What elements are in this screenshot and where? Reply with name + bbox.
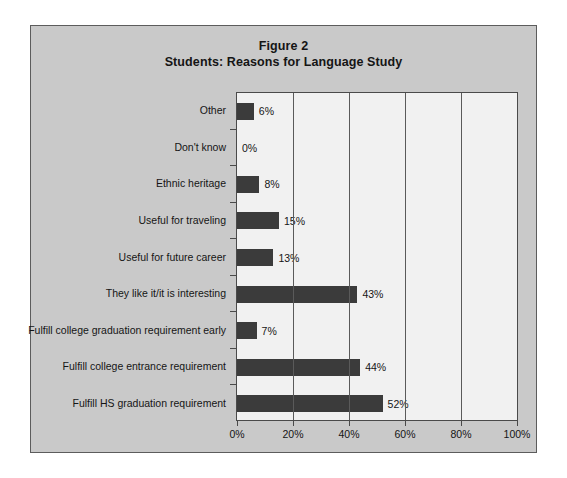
- bar: [237, 249, 273, 266]
- y-axis-tick: [230, 238, 236, 239]
- category-label: Other: [200, 104, 226, 116]
- chart-panel: Figure 2 Students: Reasons for Language …: [30, 25, 537, 453]
- plot-area: 6%0%8%15%13%43%7%44%52%: [236, 92, 518, 421]
- x-axis-tick: [237, 421, 238, 426]
- y-axis-tick: [230, 129, 236, 130]
- figure-root: Figure 2 Students: Reasons for Language …: [0, 0, 567, 478]
- x-axis-tick-label: 40%: [324, 428, 374, 440]
- y-axis-tick: [230, 202, 236, 203]
- x-axis-tick-label: 80%: [436, 428, 486, 440]
- bar: [237, 103, 254, 120]
- x-axis-tick: [461, 421, 462, 426]
- x-axis-tick: [405, 421, 406, 426]
- x-axis-tick-label: 60%: [380, 428, 430, 440]
- bar-value-label: 6%: [259, 105, 274, 117]
- bar: [237, 212, 279, 229]
- category-label: They like it/it is interesting: [106, 287, 226, 299]
- bar-value-label: 0%: [242, 142, 257, 154]
- x-axis-tick: [517, 421, 518, 426]
- x-axis-tick-label: 100%: [492, 428, 542, 440]
- y-axis-tick: [230, 275, 236, 276]
- bar-value-label: 44%: [365, 361, 386, 373]
- category-label: Fulfill college graduation requirement e…: [28, 324, 226, 336]
- category-axis-labels: OtherDon't knowEthnic heritageUseful for…: [31, 92, 231, 421]
- bar: [237, 322, 257, 339]
- gridline: [293, 93, 294, 420]
- bar-rows: 6%0%8%15%13%43%7%44%52%: [237, 93, 517, 420]
- bar-value-label: 7%: [262, 325, 277, 337]
- bar-value-label: 15%: [284, 215, 305, 227]
- category-label: Useful for traveling: [138, 214, 226, 226]
- y-axis-tick: [230, 165, 236, 166]
- category-label: Ethnic heritage: [156, 177, 226, 189]
- category-label: Don't know: [174, 141, 226, 153]
- figure-number: Figure 2: [31, 38, 536, 54]
- category-label: Fulfill HS graduation requirement: [73, 397, 227, 409]
- category-label: Fulfill college entrance requirement: [63, 360, 226, 372]
- category-label: Useful for future career: [119, 251, 226, 263]
- bar-value-label: 8%: [264, 178, 279, 190]
- bar: [237, 359, 360, 376]
- y-axis-tick: [230, 311, 236, 312]
- x-axis-tick: [293, 421, 294, 426]
- x-axis-tick: [349, 421, 350, 426]
- figure-subtitle: Students: Reasons for Language Study: [31, 54, 536, 70]
- x-axis-tick-label: 0%: [212, 428, 262, 440]
- x-axis-tick-label: 20%: [268, 428, 318, 440]
- gridline: [349, 93, 350, 420]
- bar-value-label: 43%: [362, 288, 383, 300]
- y-axis-tick: [230, 384, 236, 385]
- gridline: [405, 93, 406, 420]
- bar: [237, 286, 357, 303]
- bar: [237, 395, 383, 412]
- bar: [237, 176, 259, 193]
- y-axis-tick: [230, 348, 236, 349]
- bar-value-label: 13%: [278, 252, 299, 264]
- gridline: [461, 93, 462, 420]
- chart-title: Figure 2 Students: Reasons for Language …: [31, 38, 536, 70]
